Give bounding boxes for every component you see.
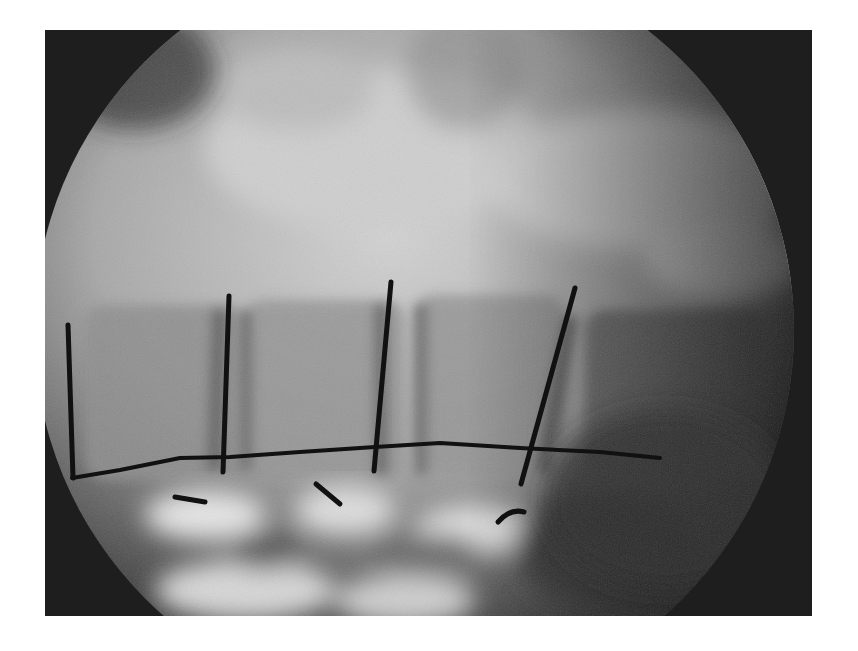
field-of-view: [45, 30, 812, 616]
xray-image-frame: [45, 30, 812, 616]
xray-radiograph: [45, 30, 812, 616]
